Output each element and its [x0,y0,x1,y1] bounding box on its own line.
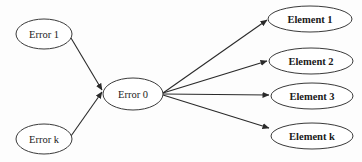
node-label-errork: Error k [29,134,60,145]
edge-error0-to-element2 [163,61,267,93]
node-error1: Error 1 [16,19,72,49]
node-label-elementk: Element k [289,131,335,142]
node-label-element3: Element 3 [289,91,334,102]
node-element2: Element 2 [269,48,353,74]
edges-layer [71,20,269,136]
node-label-element1: Element 1 [287,14,332,25]
edge-error1-to-error0 [71,38,102,90]
edge-error0-to-element1 [163,20,267,93]
edge-errork-to-error0 [71,92,102,136]
node-label-element2: Element 2 [288,56,333,67]
edge-error0-to-elementk [163,95,269,128]
nodes-layer: Error 1Error kError 0Element 1Element 2E… [16,6,353,154]
edge-error0-to-element3 [163,94,269,95]
node-elementk: Element k [271,123,353,149]
node-element3: Element 3 [271,83,353,109]
node-element1: Element 1 [268,6,352,32]
node-label-error1: Error 1 [29,29,59,40]
node-error0: Error 0 [103,78,163,110]
error-propagation-diagram: Error 1Error kError 0Element 1Element 2E… [0,0,362,162]
node-errork: Error k [16,124,72,154]
node-label-error0: Error 0 [118,89,148,100]
